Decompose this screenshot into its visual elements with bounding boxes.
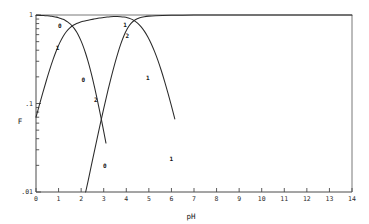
curve-inline-label-2: 2: [94, 96, 98, 103]
x-tick-label: 0: [34, 195, 38, 203]
curve-inline-label-0: 0: [58, 22, 62, 29]
x-tick-label: 11: [280, 195, 288, 203]
x-tick-label: 5: [147, 195, 151, 203]
curve-series-group: [36, 15, 352, 192]
chart-canvas: 000111122 01234567891011121314 1.1.01 pH…: [0, 0, 369, 224]
x-tick-label: 3: [102, 195, 106, 203]
y-tick-label: .01: [21, 188, 33, 196]
x-tick-label: 9: [237, 195, 241, 203]
y-tick-label: 1: [29, 11, 33, 19]
x-axis-title: pH: [186, 212, 196, 221]
x-axis-ticks: [36, 188, 352, 192]
curve-inline-label-1: 1: [170, 155, 174, 162]
x-tick-label: 1: [57, 195, 61, 203]
x-tick-label: 12: [303, 195, 311, 203]
curve-inline-label-1: 1: [123, 21, 127, 28]
curve-inline-label-2: 2: [126, 32, 130, 39]
x-tick-label: 14: [348, 195, 356, 203]
y-tick-labels: 1.1.01: [21, 11, 33, 196]
y-tick-label: .1: [25, 100, 33, 108]
x-tick-label: 13: [326, 195, 334, 203]
curve-labels-group: 000111122: [56, 21, 174, 169]
x-tick-label: 7: [192, 195, 196, 203]
x-tick-label: 4: [124, 195, 128, 203]
curve-inline-label-1: 1: [56, 44, 60, 51]
plot-frame: [36, 15, 352, 192]
curve-species-2: [86, 15, 352, 192]
x-tick-label: 8: [215, 195, 219, 203]
curve-inline-label-0: 0: [103, 162, 107, 169]
curve-inline-label-0: 0: [82, 76, 86, 83]
curve-inline-label-1: 1: [146, 74, 150, 81]
y-axis-title: F: [18, 117, 23, 126]
x-tick-label: 10: [258, 195, 266, 203]
speciation-chart: 000111122 01234567891011121314 1.1.01 pH…: [0, 0, 369, 224]
x-tick-labels: 01234567891011121314: [34, 195, 356, 203]
x-tick-label: 6: [169, 195, 173, 203]
x-tick-label: 2: [79, 195, 83, 203]
